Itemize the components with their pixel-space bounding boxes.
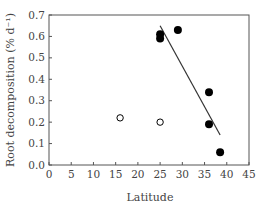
filled-data-point: [216, 148, 224, 156]
y-tick-label: 0.2: [28, 116, 45, 128]
x-tick-label: 10: [87, 168, 100, 180]
x-tick-label: 40: [220, 168, 233, 180]
x-tick-label: 15: [109, 168, 122, 180]
filled-data-point: [174, 26, 182, 34]
scatter-chart: 0.00.10.20.30.40.50.60.7 051015202530354…: [0, 0, 272, 207]
x-tick-label: 25: [153, 168, 166, 180]
y-tick-label: 0.0: [28, 159, 45, 171]
x-tick-label: 35: [198, 168, 211, 180]
regression-line: [160, 26, 220, 135]
y-tick-label: 0.4: [28, 73, 45, 85]
filled-data-point: [156, 35, 164, 43]
plot-area-border: [49, 15, 249, 165]
regression-line-segment: [160, 26, 220, 135]
x-tick-label: 20: [131, 168, 144, 180]
open-data-point: [117, 115, 123, 121]
y-axis-ticks: 0.00.10.20.30.40.50.60.7: [28, 9, 52, 171]
open-data-point: [157, 119, 163, 125]
filled-data-point: [205, 88, 213, 96]
filled-data-point: [205, 120, 213, 128]
x-axis-title: Latitude: [127, 191, 174, 204]
y-tick-label: 0.7: [28, 9, 45, 21]
plot-frame: [49, 15, 249, 165]
y-axis-title: Root decomposition (% d⁻¹): [4, 13, 17, 167]
y-tick-label: 0.1: [28, 137, 45, 149]
y-tick-label: 0.3: [28, 94, 45, 106]
y-tick-label: 0.5: [28, 51, 45, 63]
x-tick-label: 0: [46, 168, 53, 180]
x-tick-label: 45: [242, 168, 255, 180]
y-tick-label: 0.6: [28, 30, 45, 42]
x-tick-label: 30: [176, 168, 189, 180]
x-tick-label: 5: [68, 168, 75, 180]
